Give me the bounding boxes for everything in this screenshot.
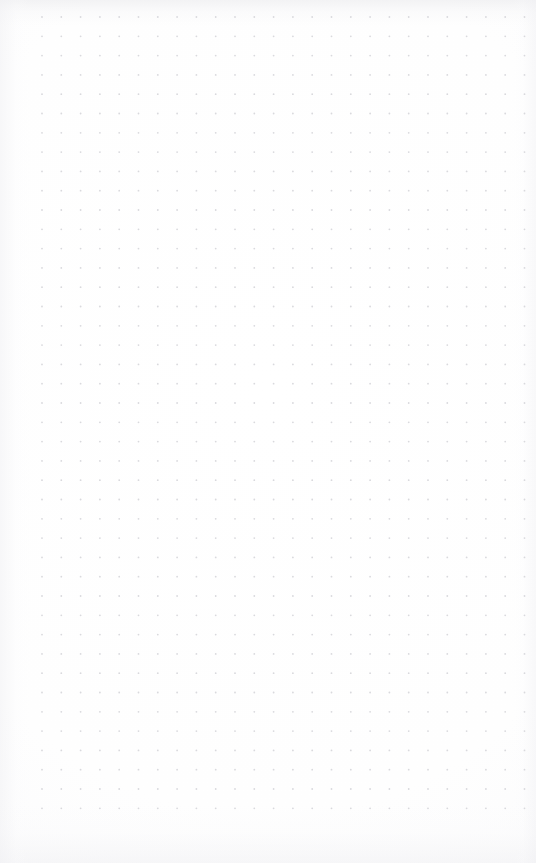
grid-dot	[524, 286, 526, 288]
grid-dot	[331, 576, 333, 578]
grid-dot	[176, 113, 178, 115]
grid-dot	[253, 537, 255, 539]
grid-dot	[176, 499, 178, 501]
grid-dot	[253, 634, 255, 636]
grid-dot	[524, 672, 526, 674]
grid-dot	[196, 692, 198, 694]
grid-dot	[369, 113, 371, 115]
grid-dot	[176, 653, 178, 655]
grid-dot	[408, 460, 410, 462]
grid-dot	[253, 807, 255, 809]
grid-dot	[60, 325, 62, 327]
grid-dot	[118, 614, 120, 616]
grid-dot	[389, 557, 391, 559]
grid-dot	[389, 711, 391, 713]
grid-dot	[292, 151, 294, 153]
grid-dot	[138, 228, 140, 230]
grid-dot	[427, 402, 429, 404]
grid-dot	[524, 518, 526, 520]
grid-dot	[350, 364, 352, 366]
grid-dot	[408, 653, 410, 655]
grid-dot	[41, 576, 43, 578]
grid-dot	[292, 171, 294, 173]
grid-dot	[389, 479, 391, 481]
grid-dot	[99, 383, 101, 385]
grid-dot	[524, 499, 526, 501]
grid-dot	[331, 460, 333, 462]
grid-dot	[138, 807, 140, 809]
grid-dot	[118, 634, 120, 636]
grid-dot	[99, 537, 101, 539]
grid-dot	[427, 267, 429, 269]
grid-dot	[138, 35, 140, 37]
grid-dot	[118, 344, 120, 346]
grid-dot	[176, 93, 178, 95]
grid-dot	[311, 267, 313, 269]
grid-dot	[331, 228, 333, 230]
grid-dot	[389, 286, 391, 288]
grid-dot	[253, 93, 255, 95]
grid-dot	[176, 576, 178, 578]
grid-dot	[60, 151, 62, 153]
grid-dot	[138, 479, 140, 481]
grid-dot	[196, 364, 198, 366]
grid-dot	[157, 479, 159, 481]
grid-dot	[234, 55, 236, 57]
grid-dot	[99, 499, 101, 501]
grid-dot	[292, 518, 294, 520]
grid-dot	[408, 16, 410, 18]
grid-dot	[138, 518, 140, 520]
grid-dot	[80, 595, 82, 597]
grid-dot	[427, 171, 429, 173]
grid-dot	[331, 248, 333, 250]
grid-dot	[446, 711, 448, 713]
grid-dot	[466, 306, 468, 308]
grid-dot	[41, 460, 43, 462]
grid-dot	[331, 344, 333, 346]
grid-dot	[331, 306, 333, 308]
grid-dot	[234, 267, 236, 269]
grid-dot	[118, 807, 120, 809]
grid-dot	[446, 306, 448, 308]
grid-dot	[196, 421, 198, 423]
grid-dot	[446, 614, 448, 616]
grid-dot	[389, 228, 391, 230]
grid-dot	[176, 151, 178, 153]
grid-dot	[485, 730, 487, 732]
grid-dot	[524, 479, 526, 481]
grid-dot	[273, 209, 275, 211]
grid-dot	[196, 634, 198, 636]
grid-dot	[273, 16, 275, 18]
grid-dot	[485, 344, 487, 346]
grid-dot	[273, 537, 275, 539]
grid-dot	[234, 672, 236, 674]
grid-dot	[138, 769, 140, 771]
grid-dot	[311, 209, 313, 211]
grid-dot	[292, 537, 294, 539]
grid-dot	[176, 55, 178, 57]
grid-dot	[408, 344, 410, 346]
grid-dot	[427, 769, 429, 771]
grid-dot	[118, 557, 120, 559]
grid-dot	[427, 151, 429, 153]
grid-dot	[118, 730, 120, 732]
grid-dot	[80, 325, 82, 327]
grid-dot	[427, 653, 429, 655]
grid-dot	[176, 132, 178, 134]
grid-dot	[466, 171, 468, 173]
grid-dot	[427, 421, 429, 423]
grid-dot	[311, 672, 313, 674]
grid-dot	[196, 730, 198, 732]
grid-dot	[427, 248, 429, 250]
grid-dot	[41, 595, 43, 597]
grid-dot	[99, 286, 101, 288]
grid-dot	[466, 151, 468, 153]
grid-dot	[60, 344, 62, 346]
grid-dot	[427, 576, 429, 578]
grid-dot	[118, 190, 120, 192]
grid-dot	[446, 228, 448, 230]
grid-dot	[311, 306, 313, 308]
grid-dot	[234, 479, 236, 481]
grid-dot	[311, 537, 313, 539]
grid-dot	[80, 518, 82, 520]
